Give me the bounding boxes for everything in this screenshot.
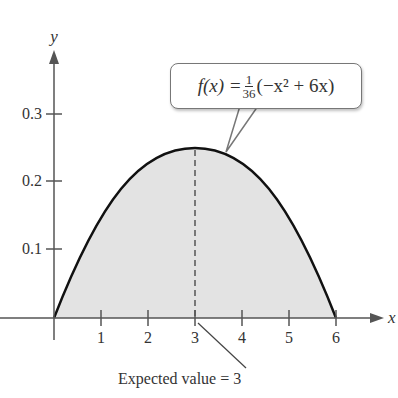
fraction-denominator: 36 (243, 87, 256, 100)
x-tick-label: 5 (285, 329, 293, 346)
x-axis-label: x (387, 308, 396, 327)
y-tick-label: 0.2 (22, 172, 42, 189)
x-tick-label: 6 (332, 329, 340, 346)
x-axis-arrow-icon (370, 313, 384, 323)
fraction-numerator: 1 (245, 73, 254, 87)
function-prefix: f(x) = (198, 75, 242, 97)
y-axis-label: y (48, 27, 58, 46)
x-tick-label: 4 (238, 329, 246, 346)
expected-value-label: Expected value = 3 (118, 370, 241, 388)
fraction: 1 36 (243, 73, 256, 100)
x-tick-label: 1 (97, 329, 105, 346)
callout-pointer (226, 106, 258, 152)
y-axis-arrow-icon (49, 50, 59, 64)
y-tick-label: 0.3 (22, 105, 42, 122)
x-tick-label: 3 (191, 329, 199, 346)
function-callout: f(x) = 1 36 (−x² + 6x) (170, 63, 362, 109)
chart-canvas: 1 2 3 4 5 6 0.1 0.2 0.3 x y (0, 0, 398, 398)
x-tick-label: 2 (144, 329, 152, 346)
y-tick-label: 0.1 (22, 240, 42, 257)
function-suffix: (−x² + 6x) (257, 75, 335, 97)
